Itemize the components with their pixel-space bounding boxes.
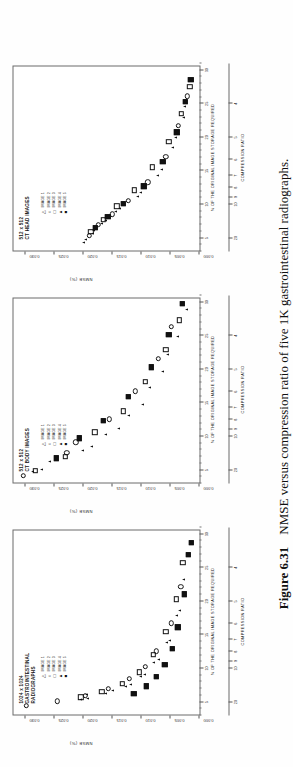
panel-title: 1024 x 1024 GASTROINTESTINAL RADIOGRAPHS [18,652,36,703]
triangle-filled-icon: ▲ [57,440,62,447]
ratio-tick [228,136,232,137]
y-tick-label: 0.010 [145,718,155,722]
compression-ratio-axis: 2010987654COMPRESSION RATIO [228,63,246,251]
ratio-tick [228,158,232,159]
data-point [76,435,81,440]
y-tick [111,715,112,718]
data-point [114,203,119,208]
legend-item: □IMAGE 3 [51,192,56,215]
data-point [175,624,180,629]
storage-minor-tick [199,422,201,423]
storage-axis-label: % OF THE ORIGINAL IMAGE STORAGE REQUIRED [209,527,214,715]
figure-page: 1024 x 1024 GASTROINTESTINAL RADIOGRAPHS… [0,0,293,767]
data-point [142,664,147,669]
storage-tick-label: 15 [204,632,208,636]
data-point [80,449,83,451]
ratio-tick-label: 9 [233,195,237,197]
legend-label: IMAGE 4 [57,192,62,207]
data-point [166,353,169,355]
storage-tick [199,334,203,335]
storage-minor-tick [199,348,201,349]
data-point [92,224,97,229]
storage-minor-tick [199,307,201,308]
storage-tick-label: 30 [204,532,208,536]
circle-open-icon: ○ [46,672,51,679]
legend-label: IMAGE 3 [51,424,56,439]
y-axis-label: NMSE (%) [69,508,92,513]
data-point [174,129,179,134]
data-point [163,346,168,351]
y-tick-label: 0.000 [203,486,213,490]
legend-label: IMAGE 3 [51,656,56,671]
storage-minor-tick [199,116,201,117]
triangle-open-icon: △ [40,208,45,215]
data-point [176,317,181,322]
data-point [188,539,193,544]
storage-minor-tick [199,714,201,715]
ratio-tick-label: 8 [233,418,237,420]
storage-tick-label: 20 [204,367,208,371]
data-point [168,620,173,625]
ratio-tick-label: 20 [233,235,237,239]
legend-label: IMAGE 3 [51,192,56,207]
ratio-tick [228,390,232,391]
data-point [181,116,184,118]
storage-minor-tick [199,580,201,581]
ratio-tick-label: 20 [233,467,237,471]
storage-tick [199,401,203,402]
storage-minor-tick [199,230,201,231]
legend-item: ■IMAGE 5 [62,656,67,679]
storage-minor-tick [199,415,201,416]
y-tick [53,715,54,718]
data-point [125,393,130,398]
ratio-tick-label: 5 [233,600,237,602]
storage-tick [199,600,203,601]
storage-minor-tick [199,586,201,587]
y-tick [53,483,54,486]
data-point [165,139,170,144]
storage-minor-tick [199,539,201,540]
legend: △IMAGE 1○IMAGE 2□IMAGE 3▲IMAGE 4■IMAGE 5 [40,424,68,447]
legend-label: IMAGE 1 [40,424,45,439]
y-tick-label: 0.005 [174,486,184,490]
ratio-axis-label: COMPRESSION RATIO [239,527,244,715]
data-point [185,308,188,310]
data-point [48,460,51,462]
legend-label: IMAGE 5 [62,656,67,671]
axis-line [228,295,229,483]
y-tick-label: 0.030 [29,486,39,490]
data-point [81,241,84,243]
storage-minor-tick [199,314,201,315]
storage-minor-tick [199,75,201,76]
storage-minor-tick [199,408,201,409]
data-point [91,232,94,234]
storage-minor-tick [199,526,201,527]
y-tick [24,251,25,254]
plot-panel-2: 512 x 512 CT BODY IMAGES△IMAGE 1○IMAGE 2… [6,291,264,517]
ratio-axis-label: COMPRESSION RATIO [239,295,244,483]
storage-tick [199,566,203,567]
storage-minor-tick [199,243,201,244]
data-point [105,686,110,691]
ratio-tick [228,660,232,661]
y-tick [82,715,83,718]
data-point [142,673,145,675]
legend-item: ○IMAGE 2 [46,424,51,447]
data-point [125,198,130,203]
triangle-filled-icon: ▲ [57,208,62,215]
storage-minor-tick [199,183,201,184]
square-open-icon: □ [51,440,56,447]
data-point [148,364,153,369]
storage-minor-tick [199,647,201,648]
y-tick-label: 0.025 [58,718,68,722]
data-point [175,122,180,127]
data-point [89,445,92,447]
data-point [104,692,107,694]
data-point [179,301,184,306]
storage-minor-tick [199,627,201,628]
storage-minor-tick [199,143,201,144]
storage-minor-tick [199,223,201,224]
legend-item: □IMAGE 3 [51,656,56,679]
storage-minor-tick [199,640,201,641]
compression-ratio-axis: 2010987654COMPRESSION RATIO [228,527,246,715]
